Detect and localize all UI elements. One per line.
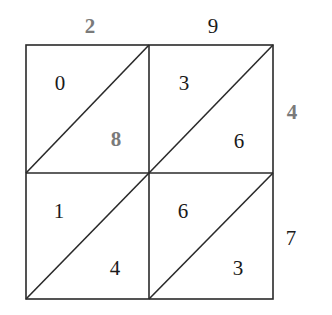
diagonal-cell-2 <box>149 45 273 173</box>
cell-3-upper: 1 <box>54 199 65 223</box>
top-digit-1: 2 <box>85 14 96 38</box>
top-digit-2: 9 <box>208 14 219 38</box>
cell-2-lower: 6 <box>234 129 245 153</box>
cell-2-upper: 3 <box>179 71 190 95</box>
right-digit-2: 7 <box>286 226 297 250</box>
cell-1-lower: 8 <box>111 127 122 151</box>
lattice-diagram: 2 9 4 7 0 8 3 6 1 4 6 3 <box>0 0 332 315</box>
diagonal-cell-1 <box>26 45 149 173</box>
cell-1-upper: 0 <box>55 71 66 95</box>
cell-4-upper: 6 <box>178 199 189 223</box>
cell-3-lower: 4 <box>110 256 121 280</box>
diagonal-cell-4 <box>149 173 273 299</box>
diagonal-cell-3 <box>26 173 149 299</box>
cell-4-lower: 3 <box>233 256 244 280</box>
right-digit-1: 4 <box>287 100 298 124</box>
